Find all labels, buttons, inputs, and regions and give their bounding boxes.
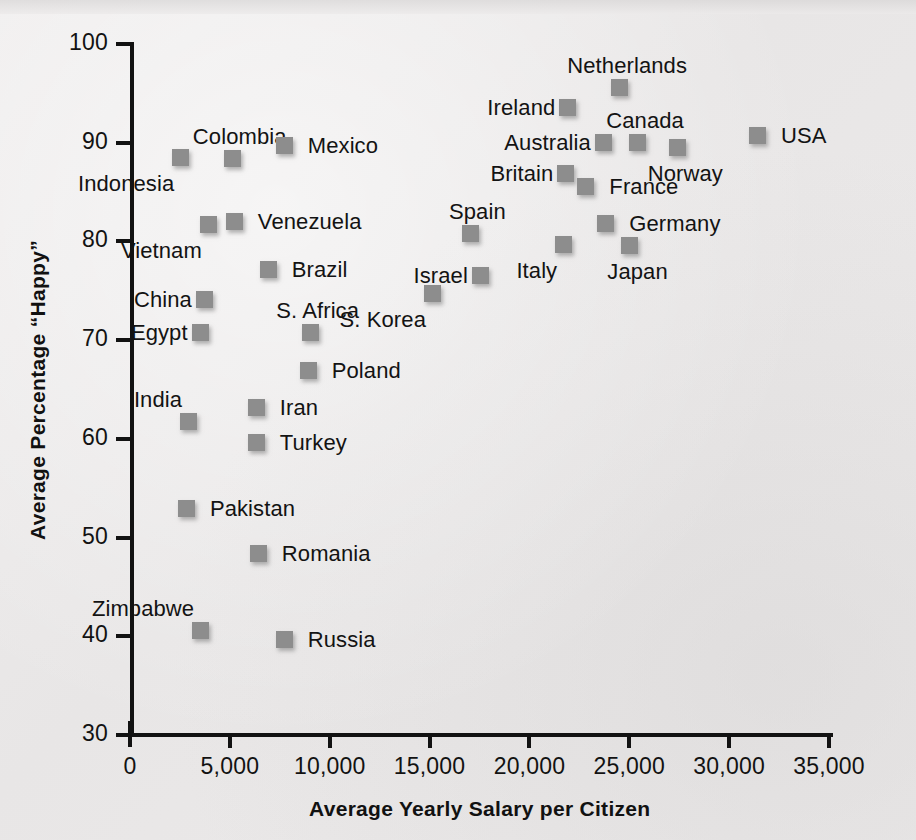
data-point-label: Brazil — [292, 257, 348, 283]
data-point-marker — [462, 225, 479, 242]
data-point-marker — [749, 127, 766, 144]
data-point-label: Spain — [449, 199, 506, 225]
data-point-label: Iran — [280, 395, 318, 421]
data-point-marker — [172, 149, 189, 166]
x-axis-tick — [627, 733, 631, 748]
y-axis-tick — [116, 634, 131, 638]
data-point-label: Egypt — [131, 320, 188, 346]
data-point-marker — [300, 362, 317, 379]
data-point-marker — [226, 213, 243, 230]
x-axis-tick — [827, 733, 831, 748]
data-point-label: India — [134, 387, 182, 413]
data-point-marker — [196, 291, 213, 308]
x-axis-title: Average Yearly Salary per Citizen — [309, 797, 650, 821]
data-point-label: Indonesia — [78, 171, 174, 197]
data-point-marker — [178, 500, 195, 517]
x-axis-tick — [128, 721, 132, 747]
y-axis-tick-label: 40 — [14, 621, 108, 648]
data-point-marker — [597, 215, 614, 232]
data-point-label: S. Korea — [340, 307, 426, 333]
y-axis-tick-label: 60 — [14, 424, 108, 451]
data-point-marker — [669, 139, 686, 156]
data-point-label: Germany — [629, 211, 720, 237]
data-point-label: Canada — [606, 108, 684, 134]
data-point-label: Ireland — [487, 95, 555, 121]
data-point-marker — [180, 413, 197, 430]
y-axis-tick-label: 100 — [14, 29, 108, 56]
data-point-marker — [559, 99, 576, 116]
data-point-label: Turkey — [280, 430, 347, 456]
data-point-marker — [250, 545, 267, 562]
data-point-label: Netherlands — [567, 53, 687, 79]
data-point-marker — [224, 150, 241, 167]
y-axis-tick — [116, 536, 131, 540]
y-axis-tick — [116, 338, 131, 342]
y-axis-title: Average Percentage “Happy” — [26, 240, 50, 540]
plot-area: Average Yearly Salary per Citizen Averag… — [0, 0, 916, 840]
scatter-plot-figure: Average Yearly Salary per Citizen Averag… — [0, 0, 916, 840]
x-axis-tick — [228, 733, 232, 748]
y-axis-tick-label: 30 — [14, 720, 108, 747]
data-point-label: Japan — [607, 259, 667, 285]
data-point-label: Britain — [490, 161, 553, 187]
data-point-marker — [611, 79, 628, 96]
y-axis-tick-label: 80 — [14, 226, 108, 253]
data-point-label: Israel — [414, 263, 468, 289]
data-point-marker — [629, 134, 646, 151]
x-axis-tick — [727, 733, 731, 748]
data-point-marker — [595, 134, 612, 151]
data-point-label: Mexico — [308, 133, 378, 159]
data-point-marker — [248, 399, 265, 416]
y-axis-tick — [116, 437, 131, 441]
x-axis-tick — [328, 733, 332, 748]
data-point-marker — [260, 261, 277, 278]
data-point-label: Venezuela — [258, 209, 362, 235]
data-point-label: Poland — [332, 358, 401, 384]
data-point-label: Norway — [648, 161, 723, 187]
data-point-label: Colombia — [193, 124, 287, 150]
data-point-marker — [276, 137, 293, 154]
x-axis-tick — [527, 733, 531, 748]
data-point-marker — [200, 216, 217, 233]
x-axis-tick-label: 35,000 — [769, 753, 889, 780]
data-point-label: Australia — [504, 130, 591, 156]
x-axis-tick — [428, 733, 432, 748]
y-axis-tick-label: 90 — [14, 128, 108, 155]
data-point-marker — [555, 236, 572, 253]
data-point-label: Russia — [308, 627, 376, 653]
data-point-marker — [248, 434, 265, 451]
data-point-marker — [557, 165, 574, 182]
y-axis-tick — [116, 42, 131, 46]
data-point-marker — [472, 267, 489, 284]
data-point-marker — [621, 237, 638, 254]
data-point-marker — [577, 178, 594, 195]
data-point-marker — [192, 622, 209, 639]
y-axis-tick-label: 50 — [14, 523, 108, 550]
data-point-label: Vietnam — [121, 238, 202, 264]
y-axis-tick-label: 70 — [14, 325, 108, 352]
data-point-marker — [276, 631, 293, 648]
data-point-label: Romania — [282, 541, 371, 567]
data-point-marker — [192, 324, 209, 341]
y-axis-tick — [116, 141, 131, 145]
data-point-label: China — [134, 287, 192, 313]
data-point-label: Zimbabwe — [92, 596, 194, 622]
data-point-label: Pakistan — [210, 496, 295, 522]
data-point-marker — [302, 324, 319, 341]
data-point-label: Italy — [516, 258, 557, 284]
data-point-label: USA — [781, 123, 827, 149]
